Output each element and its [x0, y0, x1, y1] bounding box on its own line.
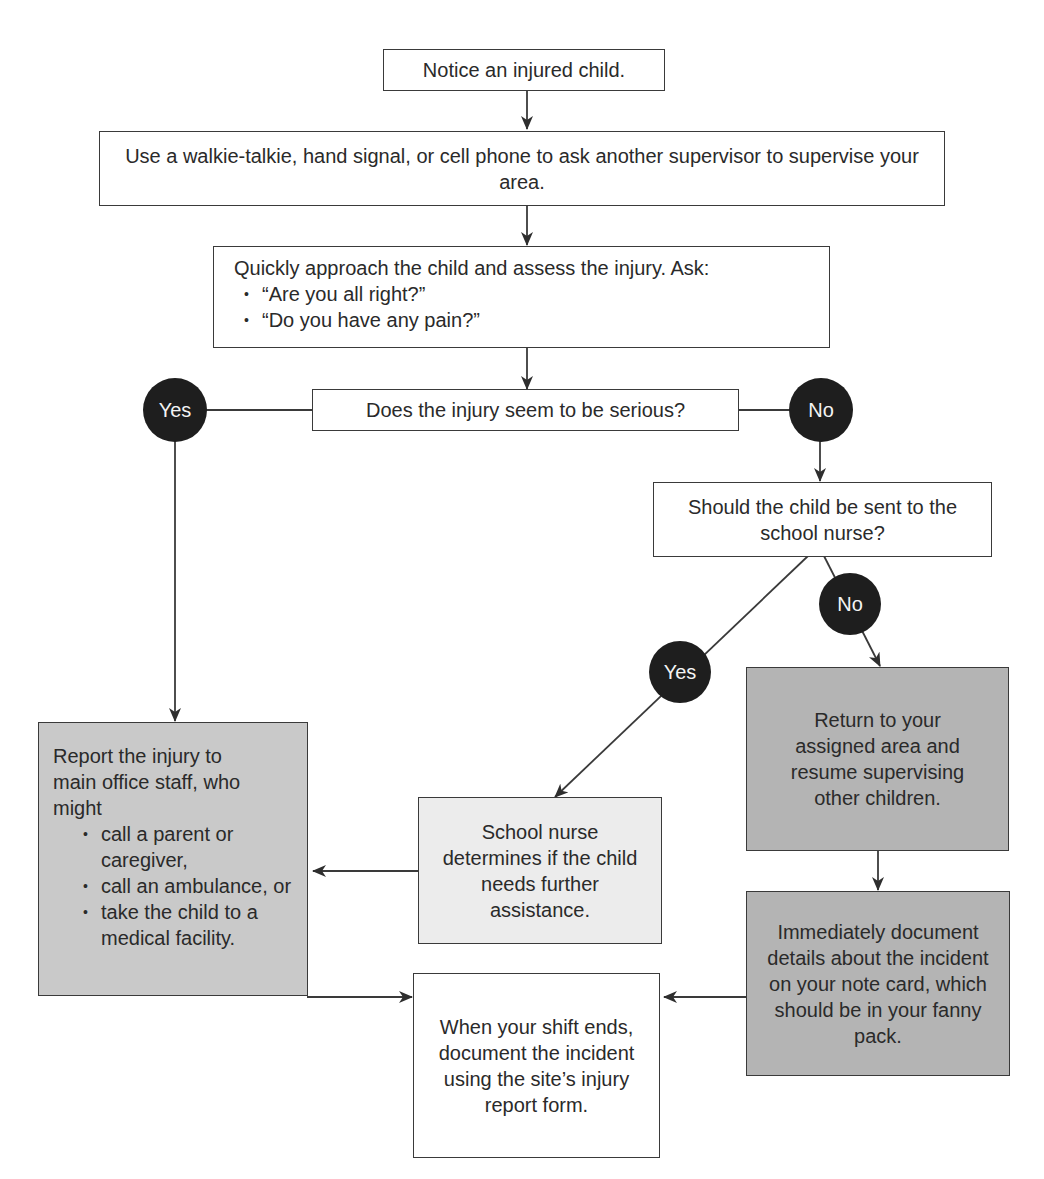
no-label: No	[808, 399, 834, 422]
no-nurse-badge: No	[819, 573, 881, 635]
document-shift-text: When your shift ends, document the incid…	[432, 1014, 641, 1118]
document-now-box: Immediately document details about the i…	[746, 891, 1010, 1076]
report-box: Report the injury to main office staff, …	[38, 722, 308, 996]
decision-nurse-text: Should the child be sent to the school n…	[664, 494, 981, 546]
yes-label: Yes	[159, 399, 192, 422]
assess-box: Quickly approach the child and assess th…	[213, 246, 830, 348]
no-label: No	[837, 593, 863, 616]
yes-nurse-badge: Yes	[649, 641, 711, 703]
report-option: call an ambulance, or	[79, 873, 293, 899]
report-option: call a parent or caregiver,	[79, 821, 293, 873]
report-option: take the child to a medical facility.	[79, 899, 293, 951]
ask-supervisor-text: Use a walkie-talkie, hand signal, or cel…	[120, 143, 924, 195]
ask-supervisor-box: Use a walkie-talkie, hand signal, or cel…	[99, 131, 945, 206]
document-now-text: Immediately document details about the i…	[755, 919, 1001, 1049]
yes-label: Yes	[664, 661, 697, 684]
document-shift-box: When your shift ends, document the incid…	[413, 973, 660, 1158]
no-serious-badge: No	[789, 378, 853, 442]
report-text: Report the injury to main office staff, …	[53, 743, 263, 821]
decision-serious-text: Does the injury seem to be serious?	[366, 397, 685, 423]
start-text: Notice an injured child.	[423, 57, 625, 83]
assess-question: “Are you all right?”	[240, 281, 809, 307]
decision-serious-box: Does the injury seem to be serious?	[312, 389, 739, 431]
return-box: Return to your assigned area and resume …	[746, 667, 1009, 851]
nurse-text: School nurse determines if the child nee…	[433, 819, 647, 923]
nurse-box: School nurse determines if the child nee…	[418, 797, 662, 944]
yes-serious-badge: Yes	[143, 378, 207, 442]
start-box: Notice an injured child.	[383, 49, 665, 91]
return-text: Return to your assigned area and resume …	[787, 707, 968, 811]
assess-text: Quickly approach the child and assess th…	[234, 255, 809, 281]
assess-question: “Do you have any pain?”	[240, 307, 809, 333]
decision-nurse-box: Should the child be sent to the school n…	[653, 482, 992, 557]
